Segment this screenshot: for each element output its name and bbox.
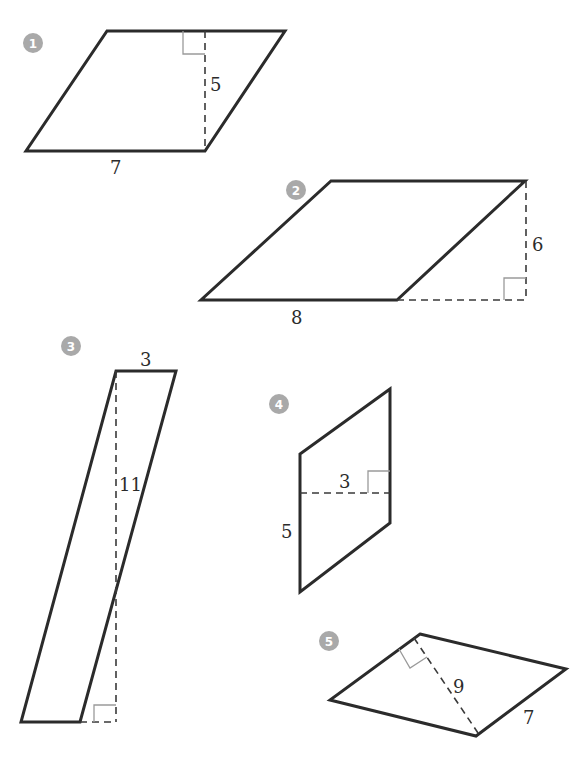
right-angle-icon [368,471,390,493]
figure-number-badge: 5 [319,631,339,651]
figure-number-badge: 2 [286,180,306,200]
base-label: 3 [140,349,151,370]
height-line [414,638,478,733]
figure-number-badge: 4 [269,394,289,414]
right-angle-icon [183,31,205,54]
height-label: 3 [339,471,350,492]
badge-number: 3 [67,340,75,354]
badge-number: 5 [325,635,333,649]
figure-number-badge: 1 [23,33,43,53]
figure-2: 2 6 8 [201,180,543,328]
height-label: 5 [210,74,221,95]
base-label: 7 [523,707,534,728]
height-label: 9 [453,676,464,697]
height-label: 6 [532,234,543,255]
figure-4: 4 3 5 [269,389,390,592]
parallelogram-shape [26,31,285,151]
parallelogram-worksheet: 1 5 7 2 6 8 3 11 3 4 [0,0,584,757]
parallelogram-shape [21,371,176,722]
badge-number: 1 [29,37,37,51]
badge-number: 2 [292,184,300,198]
figure-1: 1 5 7 [23,31,285,178]
right-angle-icon [94,705,116,722]
figure-number-badge: 3 [61,336,81,356]
right-angle-icon [504,278,526,300]
base-label: 5 [281,521,292,542]
figure-5: 5 9 7 [319,631,566,736]
base-label: 7 [110,157,121,178]
figure-3: 3 11 3 [21,336,176,722]
base-label: 8 [291,307,302,328]
badge-number: 4 [275,398,283,412]
height-label: 11 [119,474,142,495]
parallelogram-shape [201,181,525,300]
